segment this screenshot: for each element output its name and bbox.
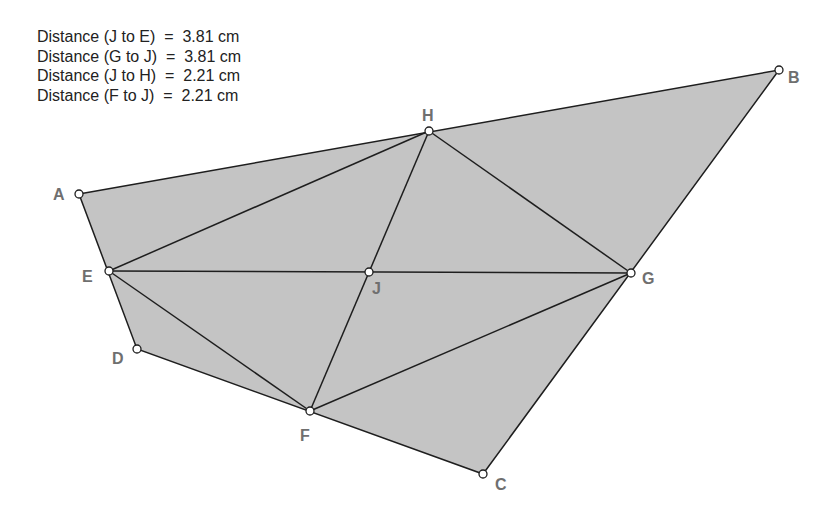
point-label-g[interactable]: G: [642, 270, 654, 287]
point-label-b[interactable]: B: [788, 69, 800, 86]
point-b[interactable]: [775, 66, 783, 74]
geometry-canvas[interactable]: ABCDEFGHJ: [0, 0, 840, 514]
point-label-e[interactable]: E: [82, 268, 93, 285]
point-g[interactable]: [627, 269, 635, 277]
point-j[interactable]: [365, 268, 373, 276]
point-h[interactable]: [425, 127, 433, 135]
point-label-f[interactable]: F: [300, 427, 310, 444]
point-e[interactable]: [105, 267, 113, 275]
point-label-a[interactable]: A: [53, 186, 65, 203]
point-label-c[interactable]: C: [495, 476, 507, 493]
point-d[interactable]: [133, 345, 141, 353]
point-f[interactable]: [306, 407, 314, 415]
point-label-j[interactable]: J: [372, 280, 381, 297]
point-label-d[interactable]: D: [112, 350, 124, 367]
point-label-h[interactable]: H: [422, 107, 434, 124]
point-a[interactable]: [75, 190, 83, 198]
point-c[interactable]: [479, 470, 487, 478]
